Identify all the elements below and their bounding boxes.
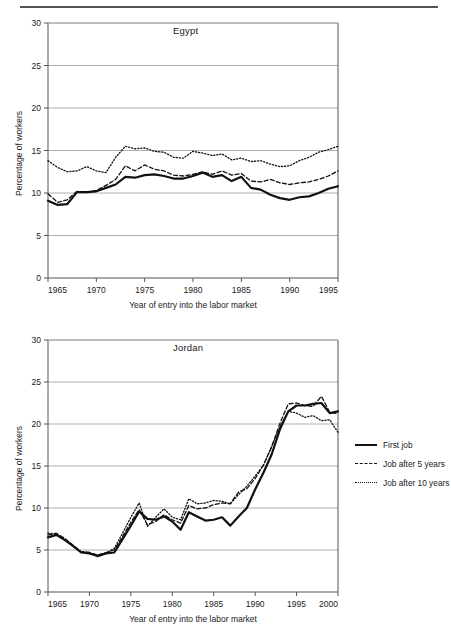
- y-tick-label-30: 30: [32, 18, 42, 28]
- legend-item-job-after-5-years: Job after 5 years: [355, 456, 451, 472]
- x-tick-label-1970: 1970: [80, 599, 99, 609]
- series-line-solid: [48, 173, 338, 205]
- x-tick-label-1990: 1990: [246, 599, 265, 609]
- x-tick-label-1995: 1995: [319, 285, 338, 295]
- jordan-panel-title: Jordan: [173, 342, 203, 353]
- dashed-line-icon: [355, 459, 377, 469]
- y-tick-label-20: 20: [32, 103, 42, 113]
- legend-label-job-after-5-years: Job after 5 years: [383, 459, 445, 469]
- egypt-y-axis-title: Percentage of workers: [14, 110, 24, 195]
- solid-line-icon: [355, 440, 377, 450]
- x-tick-label-1965: 1965: [48, 285, 67, 295]
- egypt-x-axis-title: Year of entry into the labor market: [48, 300, 338, 310]
- y-tick-label-30: 30: [32, 335, 42, 345]
- legend-label-job-after-10-years: Job after 10 years: [383, 478, 449, 488]
- figure-page: 0510152025301965197019751980198519901995…: [0, 0, 451, 644]
- y-tick-label-0: 0: [36, 273, 41, 283]
- chart-legend: First job Job after 5 years Job after 10…: [355, 437, 451, 494]
- x-tick-label-1980: 1980: [163, 599, 182, 609]
- egypt-panel-title: Egypt: [173, 25, 198, 36]
- legend-label-first-job: First job: [383, 440, 413, 450]
- y-tick-label-10: 10: [32, 188, 42, 198]
- jordan-y-axis-title: Percentage of workers: [14, 426, 24, 511]
- legend-item-job-after-10-years: Job after 10 years: [355, 475, 451, 491]
- x-tick-label-1985: 1985: [204, 599, 223, 609]
- x-tick-label-1980: 1980: [184, 285, 203, 295]
- x-tick-label-1985: 1985: [232, 285, 251, 295]
- x-tick-label-2000: 2000: [319, 599, 338, 609]
- x-tick-label-1990: 1990: [280, 285, 299, 295]
- y-tick-label-20: 20: [32, 419, 42, 429]
- x-tick-label-1965: 1965: [48, 599, 67, 609]
- x-tick-label-1995: 1995: [287, 599, 306, 609]
- top-rule-divider: [20, 6, 438, 8]
- x-tick-label-1975: 1975: [135, 285, 154, 295]
- series-line-solid: [48, 403, 338, 556]
- egypt-line-chart: 0510152025301965197019751980198519901995: [0, 10, 451, 310]
- series-line-dotted: [48, 411, 338, 556]
- chart-panel-egypt: 0510152025301965197019751980198519901995…: [0, 10, 451, 310]
- x-tick-label-1970: 1970: [87, 285, 106, 295]
- legend-item-first-job: First job: [355, 437, 451, 453]
- y-tick-label-25: 25: [32, 377, 42, 387]
- y-tick-label-5: 5: [36, 231, 41, 241]
- dotted-line-icon: [355, 478, 377, 488]
- series-line-dashed: [48, 396, 338, 555]
- y-tick-label-0: 0: [36, 587, 41, 597]
- y-tick-label-15: 15: [32, 461, 42, 471]
- y-tick-label-25: 25: [32, 61, 42, 71]
- y-tick-label-5: 5: [36, 545, 41, 555]
- jordan-x-axis-title: Year of entry into the labor market: [48, 614, 338, 624]
- series-line-dashed: [48, 165, 338, 202]
- x-tick-label-1975: 1975: [121, 599, 140, 609]
- y-tick-label-10: 10: [32, 503, 42, 513]
- y-tick-label-15: 15: [32, 146, 42, 156]
